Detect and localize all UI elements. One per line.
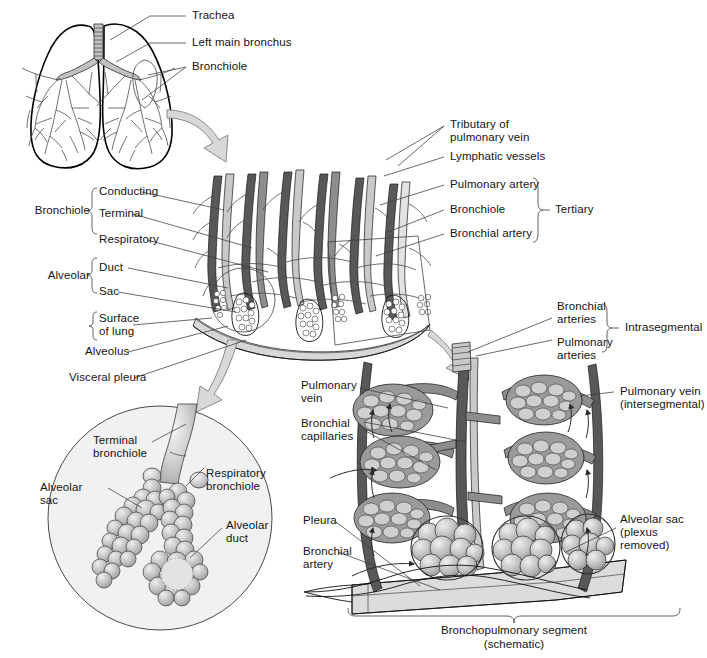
label-tributary-of-pulmonary-vein: Tributary of pulmonary vein (450, 118, 529, 144)
schematic-brace-label-intrasegmental: Intrasegmental (625, 321, 702, 334)
segment-illustration (193, 170, 431, 360)
label-terminal: Terminal (99, 207, 143, 220)
schematic-label-pulmonary-vein: Pulmonary vein (301, 379, 357, 405)
label-bronchial-artery: Bronchial artery (450, 227, 532, 240)
label-alveolar-sac: Sac (99, 285, 119, 298)
inset-label-respiratory-bronchiole: Respiratory bronchiole (206, 467, 266, 493)
label-lymphatic-vessels: Lymphatic vessels (450, 150, 545, 163)
arrow-lungs-to-segment (167, 110, 228, 162)
label-surface-of-lung: Surface of lung (99, 312, 139, 338)
capillary-plexus-group (353, 375, 586, 543)
group-label-alveolar: Alveolar (20, 269, 90, 282)
label-bronchiole-tertiary: Bronchiole (450, 203, 505, 216)
lungs-illustration (22, 24, 175, 169)
label-pulmonary-artery: Pulmonary artery (450, 178, 539, 191)
schematic-label-pulmonary-vein-intersegmental: Pulmonary vein (intersegmental) (620, 385, 705, 411)
schematic-label-bronchial-artery: Bronchial artery (303, 545, 352, 571)
arrow-segment-to-inset (196, 340, 238, 412)
schematic-label-pulmonary-arteries: Pulmonary arteries (557, 336, 613, 362)
label-alveolus: Alveolus (85, 345, 129, 358)
label-left-main-bronchus: Left main bronchus (192, 36, 292, 49)
inset-label-alveolar-duct: Alveolar duct (226, 519, 268, 545)
label-respiratory: Respiratory (99, 233, 159, 246)
schematic-label-bronchial-capillaries: Bronchial capillaries (301, 417, 353, 443)
label-conducting: Conducting (99, 185, 158, 198)
label-trachea: Trachea (192, 9, 234, 22)
inset-label-terminal-bronchiole: Terminal bronchiole (93, 434, 147, 460)
group-label-bronchiole: Bronchiole (20, 204, 90, 217)
brace-label-tertiary: Tertiary (555, 203, 594, 216)
inset-respiratory-bronchiole (159, 483, 195, 559)
schematic-label-pleura: Pleura (303, 514, 337, 527)
label-alveolar-duct: Duct (99, 261, 123, 274)
label-visceral-pleura: Visceral pleura (69, 371, 146, 384)
figure-caption: Bronchopulmonary segment (schematic) (404, 623, 624, 651)
label-bronchiole: Bronchiole (192, 60, 247, 73)
inset-label-alveolar-sac: Alveolar sac (40, 481, 82, 507)
respiratory-anatomy-figure: Trachea Left main bronchus Bronchiole Br… (0, 0, 707, 658)
schematic-label-bronchial-arteries: Bronchial arteries (557, 300, 606, 326)
schematic-label-alveolar-sac-plexus-removed: Alveolar sac (plexus removed) (620, 513, 684, 552)
